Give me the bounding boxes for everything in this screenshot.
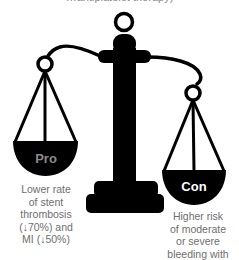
right-string (193, 100, 194, 171)
left-beam-arm (48, 46, 100, 56)
pro-caption-line: Lower rate (6, 183, 86, 196)
pro-caption-line: of stent (6, 196, 86, 209)
left-ring-icon (38, 57, 52, 71)
right-string (193, 100, 224, 171)
left-string (15, 71, 45, 142)
pro-caption: Lower rate of stent thrombosis (↓70%) an… (6, 183, 86, 246)
right-beam-arm (148, 57, 201, 84)
left-pan-label: Pro (35, 151, 57, 166)
top-ring-icon (116, 14, 133, 31)
con-caption-line: bleeding with (157, 248, 239, 260)
con-caption: Higher risk of moderate or severe bleedi… (157, 210, 239, 260)
pro-caption-line: (↓70%) and (6, 221, 86, 234)
left-string (45, 71, 76, 142)
base-lower-step (86, 194, 164, 213)
right-ring-icon (186, 86, 200, 100)
right-pan-label: Con (181, 179, 206, 194)
pro-caption-line: thrombosis (6, 208, 86, 221)
right-string (164, 100, 193, 171)
post (113, 48, 136, 188)
con-caption-line: of moderate (157, 223, 239, 236)
con-caption-line: or severe (157, 235, 239, 248)
pro-caption-line: MI (↓50%) (6, 233, 86, 246)
con-caption-line: Higher risk (157, 210, 239, 223)
